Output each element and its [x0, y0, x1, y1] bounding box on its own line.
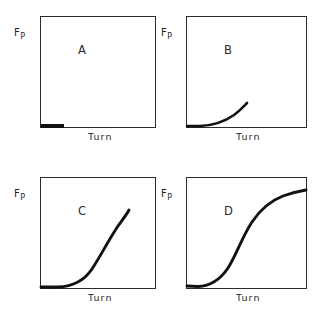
panel-d-curve: [187, 190, 306, 287]
chart-panel-a: A: [40, 16, 156, 128]
y-axis-label-a-main: F: [14, 27, 20, 38]
panel-b-curve: [187, 103, 247, 126]
y-axis-label-c-main: F: [14, 188, 20, 199]
panel-b-letter: B: [224, 45, 232, 57]
y-axis-label-a-subscript: P: [20, 32, 25, 41]
y-axis-label-c: FP: [14, 189, 25, 202]
panel-c-letter: C: [78, 206, 86, 218]
x-axis-label-c: Turn: [88, 293, 113, 303]
panel-a-letter: A: [78, 45, 86, 57]
y-axis-label-b: FP: [161, 28, 172, 41]
x-axis-label-a: Turn: [88, 132, 113, 142]
panel-c-plot: [40, 177, 156, 289]
panel-a-plot: [40, 16, 156, 128]
panel-d-letter: D: [224, 206, 233, 218]
chart-panel-b: B: [186, 16, 307, 128]
y-axis-label-d-subscript: P: [167, 193, 172, 202]
y-axis-label-d-main: F: [161, 188, 167, 199]
y-axis-label-b-subscript: P: [167, 32, 172, 41]
y-axis-label-a: FP: [14, 28, 25, 41]
x-axis-label-b: Turn: [236, 132, 261, 142]
chart-panel-c: C: [40, 177, 156, 289]
x-axis-label-d: Turn: [236, 293, 261, 303]
y-axis-label-c-subscript: P: [20, 193, 25, 202]
panel-b-plot: [186, 16, 307, 128]
panel-d-plot: [186, 177, 307, 289]
y-axis-label-d: FP: [161, 189, 172, 202]
y-axis-label-b-main: F: [161, 27, 167, 38]
chart-panel-d: D: [186, 177, 307, 289]
panel-c-curve: [41, 210, 129, 287]
figure-panel-grid: FP A Turn FP B Turn FP C Turn FP D Tur: [0, 0, 325, 320]
